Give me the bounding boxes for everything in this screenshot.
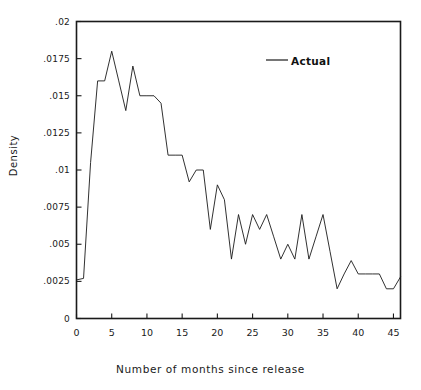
chart-plot-area: [0, 0, 421, 390]
plot-frame: [77, 22, 401, 319]
axis-tick-marks: [77, 22, 394, 319]
series-line-actual: [77, 51, 401, 289]
